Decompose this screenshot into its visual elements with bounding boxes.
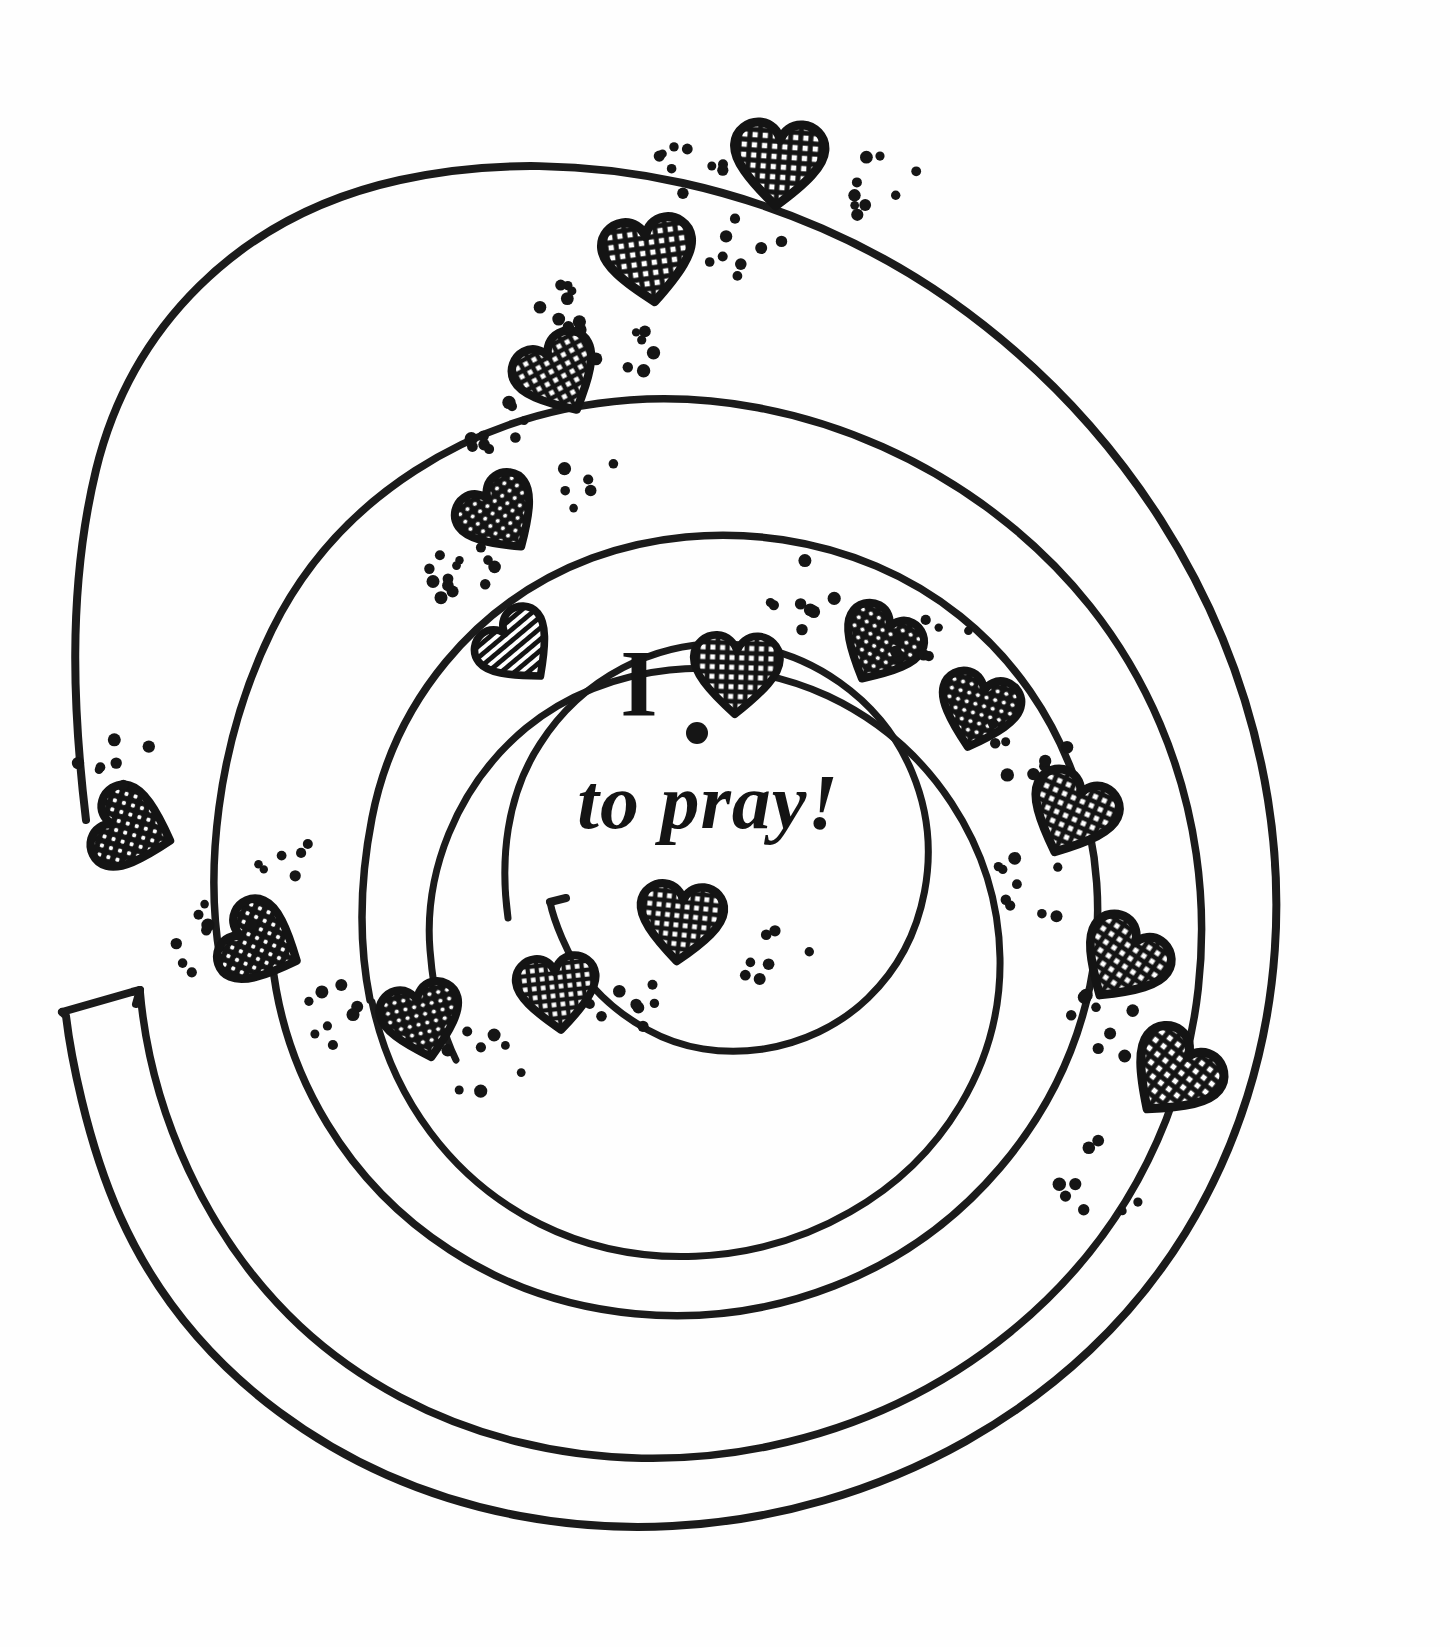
ink-dot [118, 780, 128, 790]
ink-dot [1083, 1141, 1096, 1154]
ink-dot [990, 738, 1000, 748]
ink-dot [1104, 1028, 1116, 1040]
ink-dot [682, 144, 693, 155]
ink-dot [891, 191, 900, 200]
ink-dot [755, 242, 767, 254]
ink-dot [171, 938, 182, 949]
ink-dot [911, 166, 921, 176]
ink-dot [95, 766, 104, 775]
ink-dot [718, 252, 728, 262]
ink-dot [507, 401, 517, 411]
ink-dot [1126, 1004, 1139, 1017]
ink-dot [964, 627, 973, 636]
center-period-dot [686, 722, 708, 744]
ink-dot [808, 605, 821, 618]
ink-dot [476, 543, 486, 553]
ink-dot [875, 152, 884, 161]
ink-dot [1060, 1191, 1071, 1202]
ink-dot [467, 441, 478, 452]
ink-dot [796, 624, 807, 635]
ink-dot [201, 919, 214, 932]
center-phrase-to-pray: to pray! [577, 758, 839, 845]
ink-dot [1053, 863, 1062, 872]
ink-dot [478, 439, 490, 451]
ink-dot [613, 985, 626, 998]
ink-dot [567, 286, 576, 295]
ink-dot [560, 486, 570, 496]
ink-dot [335, 979, 347, 991]
ink-dot [143, 740, 155, 752]
ink-dot [558, 462, 571, 475]
ink-dot [1051, 910, 1063, 922]
ink-dot [200, 900, 209, 909]
ink-dot [1001, 737, 1010, 746]
ink-dot [1069, 1178, 1081, 1190]
ink-dot [488, 1029, 501, 1042]
ink-dot [1053, 1178, 1066, 1191]
ink-dot [850, 201, 859, 210]
ink-dot [1091, 1003, 1101, 1013]
ink-dot [1118, 1050, 1131, 1063]
ink-dot [563, 321, 574, 332]
ink-dot [1061, 741, 1074, 754]
ink-dot [452, 561, 461, 570]
ink-dot [347, 1008, 360, 1021]
ink-dot [585, 999, 595, 1009]
ink-dot [988, 719, 998, 729]
ink-dot [534, 301, 547, 314]
ink-dot [483, 555, 493, 565]
ink-dot [733, 271, 743, 281]
ink-dot [718, 159, 728, 169]
ink-dot [860, 151, 873, 164]
ink-dot [1118, 1207, 1127, 1216]
ink-dot [677, 188, 688, 199]
ink-dot [667, 164, 677, 174]
ink-dot [630, 999, 641, 1010]
ink-dot [798, 554, 811, 567]
ink-dot [303, 839, 313, 849]
ink-dot [935, 623, 943, 631]
ink-dot [443, 573, 454, 584]
ink-dot [108, 733, 121, 746]
artwork-canvas: I to pray! I heart to pray spiral I ♥ to… [0, 0, 1450, 1647]
ink-dot [669, 142, 678, 151]
ink-dot [427, 575, 440, 588]
ink-dot [705, 257, 715, 267]
ink-dot [735, 258, 747, 270]
ink-dot [290, 870, 301, 881]
ink-dot [1012, 879, 1022, 889]
ink-dot [178, 958, 188, 968]
ink-dot [1133, 1198, 1142, 1207]
ink-dot [648, 980, 658, 990]
ink-dot [707, 162, 716, 171]
ink-dot [510, 432, 521, 443]
ink-dot [921, 615, 931, 625]
ink-dot [828, 592, 841, 605]
ink-dot [1027, 768, 1039, 780]
ink-dot [315, 985, 328, 998]
ink-dot [852, 177, 862, 187]
ink-dot [720, 230, 732, 242]
ink-dot [1039, 755, 1051, 767]
ink-dot [462, 1027, 472, 1037]
ink-dot [310, 1030, 319, 1039]
ink-dot [1037, 909, 1047, 919]
ink-dot [632, 328, 640, 336]
ink-dot [520, 416, 529, 425]
ink-dot [476, 1042, 486, 1052]
ink-dot [766, 598, 775, 607]
ink-dot [569, 504, 578, 513]
ink-dot [72, 757, 84, 769]
ink-dot [761, 929, 772, 940]
ink-dot [1008, 852, 1021, 865]
ink-dot [805, 947, 814, 956]
ink-dot [848, 189, 860, 201]
ink-dot [924, 651, 934, 661]
spiral-tail-notch [136, 990, 140, 1004]
ink-dot [637, 1021, 648, 1032]
ink-dot [435, 591, 448, 604]
ink-dot [1001, 768, 1014, 781]
ink-dot [555, 280, 566, 291]
ink-dot [596, 1011, 607, 1022]
ink-dot [435, 550, 445, 560]
